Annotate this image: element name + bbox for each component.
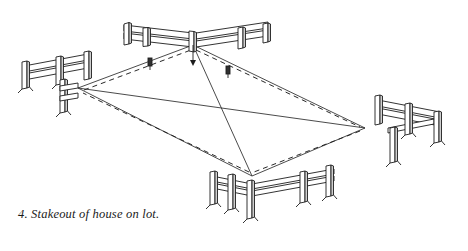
rail-front-right (252, 169, 334, 196)
batter-board-front (206, 165, 337, 223)
rail-rear-right (196, 22, 268, 47)
stake-a (148, 58, 152, 70)
building-outline (83, 50, 360, 172)
rail-rear-left (124, 25, 193, 47)
string-diagonal-a (193, 45, 252, 176)
outline-front-left (83, 93, 249, 172)
string-top-left (78, 45, 193, 88)
outline-rear-left (84, 50, 191, 90)
figure-caption: 4. Stakeout of house on lot. (18, 207, 159, 222)
string-lines (78, 45, 365, 176)
batter-board-right (375, 95, 445, 167)
batter-board-rear (124, 22, 271, 66)
stake-b (226, 66, 230, 78)
batter-board-left (18, 51, 92, 117)
string-diagonal-b (78, 88, 365, 128)
figure-stakeout: 4. Stakeout of house on lot. (0, 0, 468, 251)
string-top-right (193, 45, 365, 128)
